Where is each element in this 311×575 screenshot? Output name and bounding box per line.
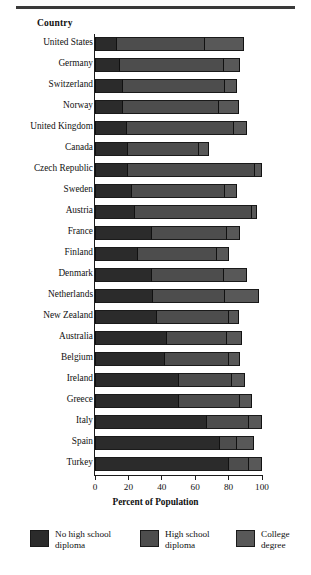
- stacked-bar: [95, 142, 209, 156]
- stacked-bar: [95, 289, 259, 303]
- bar-segment: [232, 373, 245, 387]
- bar-segment: [95, 268, 152, 282]
- bar-row: Finland: [0, 244, 311, 265]
- bar-segment: [224, 268, 247, 282]
- x-axis-tick-label: 20: [124, 482, 133, 492]
- bar-row: Ireland: [0, 370, 311, 391]
- x-axis-tick-label: 40: [157, 482, 166, 492]
- bar-row-label: Switzerland: [0, 79, 93, 90]
- bar-row: Switzerland: [0, 76, 311, 97]
- bar-segment: [95, 100, 123, 114]
- bar-segment: [255, 163, 262, 177]
- legend-swatch: [140, 530, 159, 547]
- bar-row-label: Czech Republic: [0, 163, 93, 174]
- bar-segment: [252, 205, 257, 219]
- stacked-bar: [95, 331, 242, 345]
- bar-row-label: United States: [0, 37, 93, 48]
- bar-segment: [207, 415, 249, 429]
- bar-row-label: Spain: [0, 436, 93, 447]
- bar-segment: [225, 184, 237, 198]
- bar-segment: [220, 436, 237, 450]
- bar-segment: [224, 58, 241, 72]
- bar-row: Austria: [0, 202, 311, 223]
- bar-segment: [95, 58, 120, 72]
- stacked-bar: [95, 373, 245, 387]
- bar-row: United States: [0, 34, 311, 55]
- x-axis-tick-label: 80: [224, 482, 233, 492]
- bar-row: Norway: [0, 97, 311, 118]
- stacked-bar: [95, 310, 239, 324]
- bar-segment: [157, 310, 229, 324]
- bar-segment: [95, 247, 138, 261]
- bar-segment: [249, 457, 262, 471]
- bar-row-label: Australia: [0, 331, 93, 342]
- bar-row-label: Denmark: [0, 268, 93, 279]
- bar-row: Belgium: [0, 349, 311, 370]
- bar-segment: [95, 289, 153, 303]
- x-axis-tick-label: 60: [191, 482, 200, 492]
- bar-row-label: Norway: [0, 100, 93, 111]
- plot-area: United StatesGermanySwitzerlandNorwayUni…: [0, 34, 311, 466]
- x-axis-title: Percent of Population: [0, 497, 311, 507]
- legend-label: College degree: [261, 529, 290, 551]
- x-axis-tick: [195, 475, 196, 480]
- bar-row: New Zealand: [0, 307, 311, 328]
- bar-segment: [225, 289, 258, 303]
- bar-row-label: Sweden: [0, 184, 93, 195]
- x-axis-tick: [262, 475, 263, 480]
- bar-segment: [95, 352, 165, 366]
- bar-segment: [127, 121, 234, 135]
- bar-row-label: Belgium: [0, 352, 93, 363]
- bar-segment: [153, 289, 225, 303]
- bar-segment: [205, 37, 243, 51]
- stacked-bar: [95, 436, 254, 450]
- bar-segment: [128, 163, 255, 177]
- bar-row: Denmark: [0, 265, 311, 286]
- bar-segment: [95, 436, 220, 450]
- stacked-bar: [95, 268, 247, 282]
- bar-row: Italy: [0, 412, 311, 433]
- bar-segment: [229, 457, 249, 471]
- bar-row-label: Netherlands: [0, 289, 93, 300]
- bar-segment: [95, 373, 179, 387]
- bar-rows: United StatesGermanySwitzerlandNorwayUni…: [0, 34, 311, 475]
- bar-segment: [95, 37, 117, 51]
- bar-segment: [199, 142, 209, 156]
- bar-segment: [128, 142, 198, 156]
- top-rule: [16, 6, 295, 9]
- bar-row-label: Finland: [0, 247, 93, 258]
- bar-segment: [167, 331, 227, 345]
- legend-item: No high school diploma: [30, 529, 111, 551]
- legend-item: High school diploma: [140, 529, 210, 551]
- stacked-bar: [95, 205, 257, 219]
- x-axis-tick: [161, 475, 162, 480]
- chart-legend: No high school diplomaHigh school diplom…: [0, 529, 311, 563]
- stacked-bar: [95, 121, 247, 135]
- bar-segment: [138, 247, 216, 261]
- bar-row: Canada: [0, 139, 311, 160]
- bar-row: France: [0, 223, 311, 244]
- x-axis-tick: [228, 475, 229, 480]
- bar-row-label: Canada: [0, 142, 93, 153]
- bar-segment: [152, 226, 227, 240]
- bar-row-label: Austria: [0, 205, 93, 216]
- bar-row: United Kingdom: [0, 118, 311, 139]
- bar-segment: [95, 79, 123, 93]
- bar-row-label: Ireland: [0, 373, 93, 384]
- bar-segment: [229, 352, 241, 366]
- stacked-bar: [95, 226, 240, 240]
- stacked-bar: [95, 184, 237, 198]
- bar-row-label: Greece: [0, 394, 93, 405]
- bar-segment: [219, 100, 239, 114]
- stacked-bar: [95, 247, 229, 261]
- bar-segment: [249, 415, 262, 429]
- bar-row: Germany: [0, 55, 311, 76]
- bar-segment: [234, 121, 247, 135]
- bar-segment: [95, 205, 135, 219]
- bar-segment: [95, 310, 157, 324]
- bar-segment: [123, 100, 218, 114]
- bar-row-label: Turkey: [0, 457, 93, 468]
- bar-segment: [240, 394, 252, 408]
- bar-row: Turkey: [0, 454, 311, 475]
- bar-row: Netherlands: [0, 286, 311, 307]
